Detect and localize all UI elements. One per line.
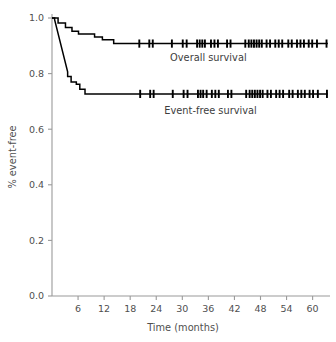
x-axis-group: 6121824303642485460 Time (months) (52, 296, 330, 333)
x-tick-label: 6 (75, 303, 81, 314)
x-tick-label: 18 (124, 303, 136, 314)
x-tick-label: 24 (150, 303, 162, 314)
y-axis-ticks: 0.00.20.40.60.81.0 (29, 12, 52, 301)
x-tick-label: 30 (176, 303, 188, 314)
x-tick-label: 54 (281, 303, 293, 314)
x-tick-label: 60 (307, 303, 319, 314)
y-tick-label: 0.6 (29, 124, 44, 135)
y-tick-label: 0.2 (29, 235, 44, 246)
y-tick-label: 0.8 (29, 68, 44, 79)
y-axis-group: 0.00.20.40.60.81.0 % event-free (7, 12, 52, 301)
y-tick-label: 1.0 (29, 12, 44, 23)
survival-chart: 0.00.20.40.60.81.0 % event-free 61218243… (0, 0, 336, 342)
x-tick-label: 36 (202, 303, 214, 314)
x-axis-title: Time (months) (146, 322, 219, 333)
series-label-2: Event-free survival (164, 105, 256, 116)
y-tick-label: 0.4 (29, 179, 44, 190)
series-1 (52, 18, 328, 48)
y-tick-label: 0.0 (29, 290, 44, 301)
kaplan-meier-plot: 0.00.20.40.60.81.0 % event-free 61218243… (0, 0, 336, 342)
x-tick-label: 48 (254, 303, 266, 314)
series-label-1: Overall survival (170, 52, 247, 63)
survival-curve (52, 18, 328, 44)
x-tick-label: 42 (228, 303, 240, 314)
x-tick-label: 12 (98, 303, 110, 314)
x-axis-ticks: 6121824303642485460 (75, 296, 319, 314)
series-labels-layer: Overall survivalEvent-free survival (164, 52, 256, 116)
y-axis-title: % event-free (7, 125, 18, 188)
